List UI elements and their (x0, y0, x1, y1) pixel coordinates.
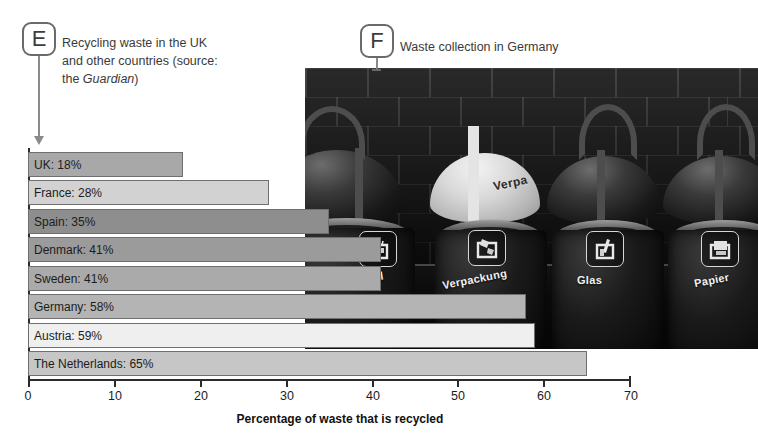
marker-f-tick (372, 69, 381, 71)
bars-plot-area: UK: 18% France: 28% Spain: 35% Denmark: … (28, 152, 629, 379)
caption-e-line3-pre: the (62, 72, 83, 86)
marker-e-stem (38, 56, 40, 138)
bar-label: France: 28% (34, 186, 102, 200)
caption-e-source-name: Guardian (83, 72, 134, 86)
recycling-bar-chart: UK: 18% France: 28% Spain: 35% Denmark: … (0, 140, 758, 435)
worksheet-page: Restmüll Verpa Verpackung (0, 0, 758, 435)
marker-e: E (22, 22, 56, 56)
bar-label: Sweden: 41% (34, 272, 108, 286)
x-axis-title: Percentage of waste that is recycled (0, 412, 680, 426)
caption-e-line3-post: ) (134, 72, 138, 86)
x-tick-label: 40 (366, 389, 380, 403)
x-tick-label: 70 (624, 389, 638, 403)
x-tick-label: 0 (25, 389, 32, 403)
caption-f-text: Waste collection in Germany (400, 38, 660, 56)
x-tick-label: 50 (451, 389, 465, 403)
caption-e-line3: the Guardian) (62, 70, 282, 88)
bar-label: Germany: 58% (34, 300, 114, 314)
marker-e-arrowhead (34, 136, 44, 145)
bar-label: The Netherlands: 65% (34, 357, 153, 371)
marker-f: F (360, 24, 394, 58)
x-axis-line (28, 379, 630, 381)
bar-label: Austria: 59% (34, 329, 102, 343)
bar-label: Denmark: 41% (34, 243, 113, 257)
bar-label: UK: 18% (34, 158, 81, 172)
x-tick-label: 10 (108, 389, 122, 403)
caption-e-line2: and other countries (source: (62, 52, 282, 70)
marker-e-letter: E (32, 28, 47, 50)
x-tick-label: 30 (280, 389, 294, 403)
x-tick-label: 20 (194, 389, 208, 403)
caption-e: Recycling waste in the UK and other coun… (62, 34, 282, 88)
x-tick-label: 60 (537, 389, 551, 403)
table-row[interactable] (28, 323, 535, 348)
bar-label: Spain: 35% (34, 215, 95, 229)
marker-f-letter: F (370, 30, 383, 52)
caption-f: Waste collection in Germany (400, 38, 660, 56)
caption-e-line1: Recycling waste in the UK (62, 34, 282, 52)
